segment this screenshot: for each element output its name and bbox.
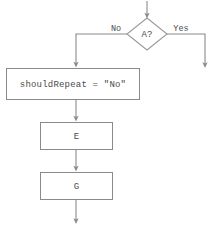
no-branch-label: No <box>111 24 121 34</box>
process-e-label: E <box>74 132 79 142</box>
flowchart-diagram: A? shouldRepeat = "No" E G No Yes <box>0 0 213 231</box>
statement-label: shouldRepeat = "No" <box>20 80 126 90</box>
node-process-e[interactable]: E <box>41 123 113 150</box>
yes-branch-connector <box>167 34 205 65</box>
node-decision-a[interactable]: A? <box>127 18 167 50</box>
decision-a-label: A? <box>142 30 153 40</box>
yes-branch-label: Yes <box>173 24 188 34</box>
no-branch-connector <box>76 34 127 65</box>
node-statement-shouldrepeat[interactable]: shouldRepeat = "No" <box>7 69 140 100</box>
edge-decision-no-branch <box>76 34 127 65</box>
edge-decision-yes-branch <box>167 34 205 65</box>
flowchart-canvas: A? shouldRepeat = "No" E G No Yes <box>0 0 213 231</box>
process-g-label: G <box>74 182 79 192</box>
node-process-g[interactable]: G <box>41 173 113 200</box>
